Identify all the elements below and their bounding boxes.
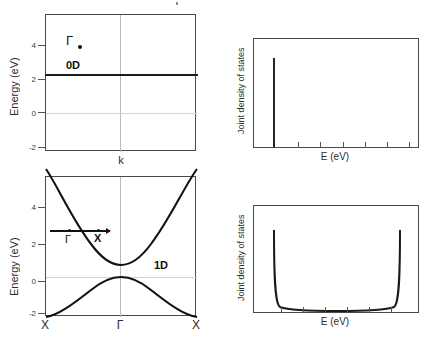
band-1d-plot-frame: Γ X 1D bbox=[45, 176, 196, 316]
band-1d-xtick-gamma: Γ bbox=[111, 318, 129, 332]
band-1d-bz-x-symbol: X bbox=[94, 232, 101, 244]
jdos-0d-xtick-2 bbox=[320, 142, 321, 148]
band-1d-ytick-minus2: -2 bbox=[20, 309, 36, 318]
band-1d-curve-svg bbox=[46, 177, 197, 317]
valence-band-curve bbox=[46, 277, 197, 317]
band-0d-tick-minus2 bbox=[38, 147, 45, 148]
band-0d-plot-frame: Γ 0D bbox=[45, 14, 196, 151]
band-1d-xtick-x-left: X bbox=[36, 318, 54, 332]
band-0d-gridline-zero bbox=[46, 113, 197, 114]
band-0d-tick-0 bbox=[38, 112, 45, 113]
band-1d-tick-2 bbox=[38, 244, 45, 245]
jdos-0d-curve-svg bbox=[254, 39, 420, 149]
band-1d-ytick-4: 4 bbox=[24, 203, 36, 212]
jdos-0d-xtick-4 bbox=[365, 142, 366, 148]
band-0d-dimension-label: 0D bbox=[66, 59, 80, 71]
band-1d-ytick-2: 2 bbox=[24, 240, 36, 249]
jdos-0d-xtick-1 bbox=[298, 142, 299, 148]
band-1d-tick-0 bbox=[38, 281, 45, 282]
jdos-1d-plot-frame bbox=[253, 205, 419, 313]
jdos-1d-xtick-1 bbox=[281, 307, 282, 313]
jdos-0d-y-axis-label: Joint density of states bbox=[236, 36, 246, 146]
jdos-0d-x-axis-label: E (eV) bbox=[300, 151, 370, 162]
band-0d-ytick-4: 4 bbox=[24, 41, 36, 50]
top-edge-artifact bbox=[176, 2, 178, 5]
band-1d-ytick-0: 0 bbox=[24, 277, 36, 286]
band-0d-bz-gamma-dot bbox=[78, 45, 82, 49]
band-0d-bz-gamma-symbol: Γ bbox=[66, 33, 73, 48]
band-0d-gridline-center bbox=[120, 15, 121, 152]
band-0d-ytick-minus2: -2 bbox=[20, 143, 36, 152]
jdos-0d-plot-frame bbox=[253, 38, 419, 148]
band-1d-bz-arrow-icon bbox=[106, 228, 111, 234]
band-1d-xtick-x-right: X bbox=[187, 318, 205, 332]
band-0d-y-axis-label: Energy (eV) bbox=[8, 32, 20, 142]
band-0d-flat-level bbox=[45, 74, 198, 76]
jdos-1d-curve bbox=[274, 230, 400, 311]
band-0d-ytick-2: 2 bbox=[24, 75, 36, 84]
conduction-band-curve bbox=[46, 169, 197, 265]
band-0d-x-axis-label: k bbox=[96, 154, 146, 166]
jdos-1d-xtick-5 bbox=[369, 307, 370, 313]
jdos-1d-x-axis-label: E (eV) bbox=[300, 316, 370, 327]
band-0d-ytick-0: 0 bbox=[24, 109, 36, 118]
jdos-1d-xtick-3 bbox=[325, 307, 326, 313]
jdos-0d-xtick-6 bbox=[409, 142, 410, 148]
band-1d-bz-gamma-symbol: Γ bbox=[65, 233, 71, 245]
jdos-1d-xtick-2 bbox=[303, 307, 304, 313]
band-1d-dimension-label: 1D bbox=[154, 259, 168, 271]
band-1d-y-axis-label: Energy (eV) bbox=[8, 212, 20, 322]
band-1d-tick-4 bbox=[38, 207, 45, 208]
band-0d-tick-2 bbox=[38, 79, 45, 80]
jdos-1d-y-axis-label: Joint density of states bbox=[236, 203, 246, 313]
jdos-1d-curve-svg bbox=[254, 206, 420, 314]
jdos-0d-xtick-3 bbox=[343, 142, 344, 148]
band-0d-tick-4 bbox=[38, 45, 45, 46]
band-1d-tick-minus2 bbox=[38, 313, 45, 314]
jdos-0d-xtick-5 bbox=[387, 142, 388, 148]
jdos-1d-xtick-4 bbox=[347, 307, 348, 313]
jdos-1d-xtick-6 bbox=[391, 307, 392, 313]
